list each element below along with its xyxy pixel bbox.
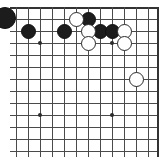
clipped-black-stone (0, 7, 16, 29)
white-stone[interactable] (129, 72, 144, 87)
black-stone[interactable] (21, 24, 36, 39)
white-stone[interactable] (117, 36, 132, 51)
stone-layer (0, 0, 164, 157)
go-board-diagram (0, 0, 164, 157)
white-stone[interactable] (69, 12, 84, 27)
black-stone[interactable] (57, 24, 72, 39)
white-stone[interactable] (81, 36, 96, 51)
